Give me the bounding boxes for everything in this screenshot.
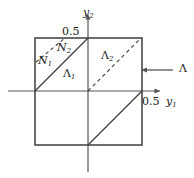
x-axis bbox=[8, 89, 160, 94]
callout-label-lambda: Λ bbox=[179, 63, 187, 74]
region-label-lambda1: Λ1 bbox=[63, 68, 75, 79]
tick-label-y1: 0.5 bbox=[142, 96, 160, 107]
figure-drawing bbox=[0, 0, 194, 178]
axis-label-y2: y2 bbox=[83, 7, 94, 18]
axis-label-y1: y1 bbox=[166, 96, 177, 107]
lambda-callout-arrow bbox=[141, 68, 173, 73]
figure-canvas: y2 y1 0.5 0.5 N1 N2 Λ1 Λ2 Λ bbox=[0, 0, 194, 178]
region-label-n1: N1 bbox=[38, 55, 52, 66]
region-label-lambda2: Λ2 bbox=[101, 50, 113, 61]
diagonal-lower-right bbox=[88, 91, 142, 145]
region-label-n2: N2 bbox=[57, 42, 71, 53]
tick-label-y2: 0.5 bbox=[62, 26, 80, 37]
dashed-diagonal-upper-right bbox=[88, 38, 141, 91]
